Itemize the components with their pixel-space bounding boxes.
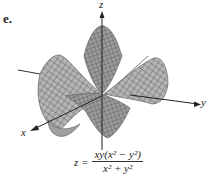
surface-formula: z = xy(x² − y²) x² + y² [74, 148, 143, 175]
formula-lhs: z = [74, 156, 88, 168]
formula-numerator: xy(x² − y²) [92, 148, 142, 162]
x-axis-label: x [21, 126, 26, 138]
y-axis-label: y [201, 96, 206, 108]
y-axis-arrow-icon [194, 102, 201, 108]
formula-denominator: x² + y² [103, 162, 132, 175]
x-axis-back [18, 70, 40, 74]
surface-trough-front [66, 93, 130, 138]
formula-fraction: xy(x² − y²) x² + y² [92, 148, 142, 175]
z-axis-arrow-icon [100, 11, 105, 18]
x-axis-arrow-icon [30, 125, 39, 131]
z-axis-label: z [99, 0, 103, 10]
